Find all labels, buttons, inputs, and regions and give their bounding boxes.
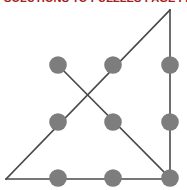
- dot-r3c1: [49, 169, 67, 187]
- dot-r2c3: [161, 113, 179, 131]
- figure-page: SOLUTIONS TO PUZZLES PAGE FIVE: [0, 0, 187, 190]
- dot-r1c2: [104, 56, 122, 74]
- dot-r3c2: [104, 169, 122, 187]
- dot-r2c2: [104, 113, 122, 131]
- dot-r1c3: [161, 56, 179, 74]
- page-title: SOLUTIONS TO PUZZLES PAGE FIVE: [4, 0, 187, 5]
- header-banner: SOLUTIONS TO PUZZLES PAGE FIVE: [0, 0, 187, 7]
- line-segments-group: [6, 10, 171, 179]
- dot-r1c1: [49, 56, 67, 74]
- dot-r3c3: [161, 169, 179, 187]
- dot-r2c1: [49, 113, 67, 131]
- figure-canvas: [0, 0, 187, 190]
- puzzle-solution-figure: [0, 0, 187, 190]
